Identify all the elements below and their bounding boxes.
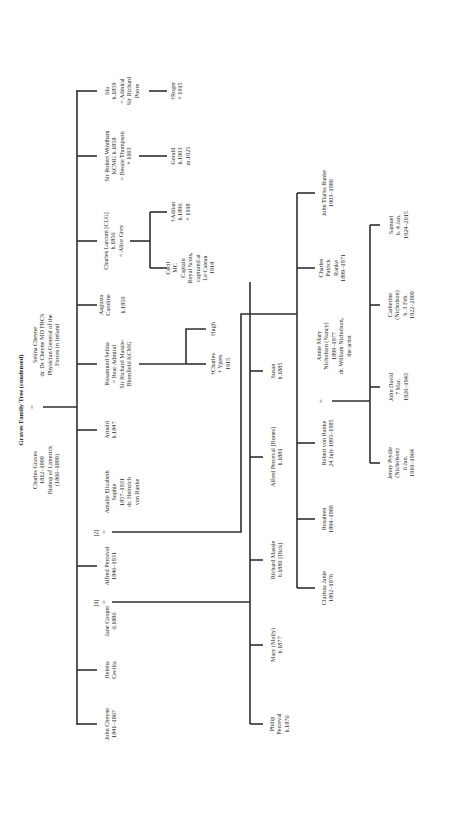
person-susan: Susan b.1885: [269, 362, 284, 379]
marriage-index-1: [1]: [92, 599, 99, 606]
person-samuel: Samuel b. 4 Jan. 1924–2015: [387, 211, 409, 239]
person-amalie: Amalie Elizabeth Sophie 1857–1931 dr. He…: [103, 470, 140, 513]
person-selina-cheyne: Selina Cheyne dr. Dr Cheyne MD FRCS Phys…: [31, 313, 61, 376]
person-alfred-perceval: Alfred Perceval 1846–1931: [103, 547, 118, 586]
marriage-2-symbol: =: [101, 530, 108, 534]
person-charles-graves: Charles Graves 1812–1899 Bishop of Limer…: [31, 446, 61, 494]
person-catherine: Catherine (Nicholson) b. 3 Feb. 1922–200…: [386, 290, 416, 320]
person-john-cheyne: John Cheyne 1841–1867: [103, 708, 118, 740]
person-adrian: †Adrian b.1896 + 1918: [169, 202, 191, 222]
person-ida: Ida b.1859 = Admiral Sir Richard Poore: [103, 77, 140, 105]
person-alfred-bones: Alfred Perceval [Bones] b.1881: [269, 427, 284, 487]
gen1-marriage-symbol: =: [29, 405, 36, 409]
person-rosamund: Rosamund Selina = Rear Admiral Sir Richa…: [103, 339, 133, 389]
person-helena-cecilia: Helena Cecilia: [103, 661, 118, 679]
person-john-david: John David 7 Mar. 1920–1943: [387, 373, 409, 401]
person-gerald: Gerald b.1903 m.1925: [169, 147, 191, 166]
person-cecil: Cecil MC Captain Royal Scots, captured a…: [164, 252, 216, 283]
person-mary-molly: Mary (Molly) b.1877: [269, 628, 284, 662]
diagram-title: Graves Family Tree (condensed): [17, 354, 24, 445]
person-charles-larcom: Charles Larcom [CLG] b.1856 = Alice Grey: [102, 212, 124, 270]
person-charles-patrick: Charles Patrick Ranke 1899–1971: [317, 254, 347, 282]
person-rosaleen: Rosaleen 1894–1989: [320, 505, 335, 533]
person-charles-ypres: †Charles + Ypres 1915: [209, 353, 231, 375]
tree-connector-lines: [0, 0, 454, 816]
marriage-index-2: [2]: [92, 529, 99, 536]
person-richard-dick: Richard Massie b.1880 [Dick]: [269, 541, 284, 580]
person-philip: Philip Perceval b.1876: [268, 713, 290, 734]
person-john-tiarks: John Tiarks Ranke 1903–1980: [320, 170, 335, 216]
person-hugh: Hugh: [209, 322, 216, 336]
person-augusta: Augusta Caroline b.1850: [97, 294, 127, 315]
ranke-marriage-symbol: =: [318, 399, 325, 403]
person-robert-windham: Sir Robert Windham KCMG b.1858 = Bessie …: [103, 130, 133, 181]
person-arnold: Arnold b.1847: [103, 421, 118, 439]
marriage-1-symbol: =: [101, 600, 108, 604]
person-jane-cooper: Jane Cooper d.1886: [103, 606, 118, 637]
person-clarissa: Clarissa Janie 1892–1976: [320, 571, 335, 605]
person-roger: †Roger + 1915: [169, 82, 184, 100]
person-robert-von-ranke: Robert von Ranke 24 July 1895–1985: [320, 419, 335, 466]
person-nancy-nicholson: Annie Mary Nicholson (Nancy) 1899–1977 d…: [315, 318, 352, 374]
person-jenny: Jenny Prydie (Nicholson) 6 Jan. 1919–196…: [386, 447, 416, 479]
